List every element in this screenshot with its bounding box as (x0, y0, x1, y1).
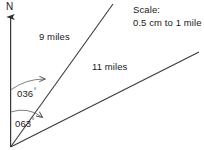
distance-label-leg-1: 9 miles (39, 32, 70, 43)
distance-label-leg-2: 11 miles (92, 62, 127, 73)
degree-symbol-leg-2: ° (32, 117, 35, 124)
bearing-value-leg-1: 036 (17, 88, 33, 99)
scale-title: Scale: (133, 4, 202, 17)
degree-symbol-leg-1: ° (34, 87, 37, 94)
scale-annotation: Scale: 0.5 cm to 1 mile (133, 4, 202, 30)
bearing-label-leg-2: 063° (15, 117, 34, 129)
scale-value: 0.5 cm to 1 mile (133, 17, 202, 30)
angle-arc-063 (11, 110, 42, 117)
bearing-label-leg-1: 036° (17, 87, 36, 99)
bearing-value-leg-2: 063 (15, 118, 31, 129)
north-label: N (6, 1, 13, 13)
bearings-diagram: N 9 miles 11 miles 036° 063° Scale: 0.5 … (0, 0, 204, 150)
